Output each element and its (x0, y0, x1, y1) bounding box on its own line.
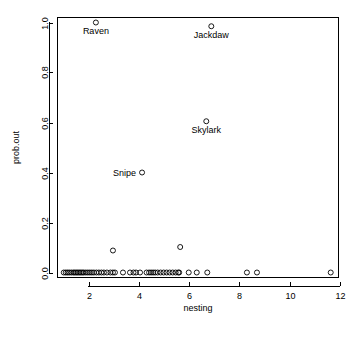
data-point (328, 270, 333, 275)
y-tick-label: 0.0 (40, 267, 50, 280)
y-tick-label: 1.0 (40, 17, 50, 30)
point-annotation-label: Skylark (192, 125, 222, 135)
point-labels-group: RavenJackdawSkylarkSnipe (83, 26, 229, 178)
data-point (204, 119, 209, 124)
x-tick-label: 6 (187, 291, 192, 301)
y-tick-label: 0.2 (40, 217, 50, 230)
data-point (209, 24, 214, 29)
data-point (93, 20, 98, 25)
plot-border-box (58, 18, 339, 278)
data-point (110, 248, 115, 253)
plot-frame (58, 18, 339, 278)
point-annotation-label: Snipe (113, 168, 136, 178)
x-axis-title: nesting (183, 303, 212, 313)
data-point (254, 270, 259, 275)
y-axis-title: prob.out (11, 130, 21, 164)
data-point (178, 245, 183, 250)
x-tick-label: 2 (87, 291, 92, 301)
data-point (140, 170, 145, 175)
point-annotation-label: Jackdaw (194, 30, 230, 40)
data-point (186, 270, 191, 275)
x-tick-label: 10 (285, 291, 295, 301)
plot-canvas: 24681012 0.00.20.40.60.81.0 RavenJackdaw… (0, 0, 358, 338)
x-axis: 24681012 (87, 282, 346, 301)
data-point (194, 270, 199, 275)
x-tick-label: 12 (335, 291, 345, 301)
data-point (244, 270, 249, 275)
y-axis: 0.00.20.40.60.81.0 (40, 17, 53, 280)
scatter-plot-figure: 24681012 0.00.20.40.60.81.0 RavenJackdaw… (0, 0, 358, 338)
y-tick-label: 0.4 (40, 167, 50, 180)
y-tick-label: 0.8 (40, 66, 50, 79)
x-tick-label: 4 (137, 291, 142, 301)
data-points-group (61, 20, 333, 275)
x-tick-label: 8 (237, 291, 242, 301)
point-annotation-label: Raven (83, 26, 109, 36)
y-tick-label: 0.6 (40, 117, 50, 130)
data-point (120, 270, 125, 275)
data-point (205, 270, 210, 275)
